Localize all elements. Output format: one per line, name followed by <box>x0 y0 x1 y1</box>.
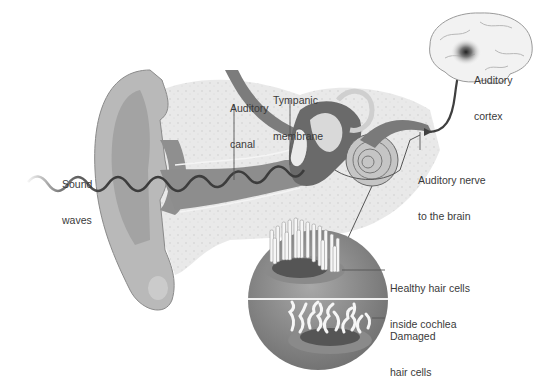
ear-diagram: Sound waves Auditory canal Tympanic memb… <box>0 0 538 391</box>
label-tympanic-membrane: Tympanic membrane <box>273 70 323 166</box>
label-auditory-canal: Auditory canal <box>230 78 269 174</box>
label-sound-waves: Sound waves <box>62 154 92 250</box>
label-auditory-nerve: Auditory nerve to the brain <box>418 150 486 246</box>
hair-cells-inset-icon <box>248 218 388 370</box>
label-damaged-hair-cells: Damaged hair cells <box>390 306 436 391</box>
label-auditory-cortex: Auditory cortex <box>474 50 513 146</box>
